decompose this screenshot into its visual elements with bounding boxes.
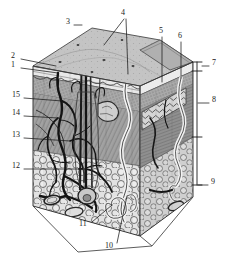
label-7: 7 xyxy=(212,59,216,67)
skin-block-illustration xyxy=(0,0,228,270)
label-14: 14 xyxy=(12,109,20,117)
label-6: 6 xyxy=(178,32,182,40)
label-15: 15 xyxy=(12,91,20,99)
skin-cross-section-figure: 1 2 3 4 5 6 7 8 9 10 11 12 13 14 15 xyxy=(0,0,228,270)
label-4: 4 xyxy=(121,9,125,17)
label-13: 13 xyxy=(12,131,20,139)
label-8: 8 xyxy=(212,96,216,104)
label-5: 5 xyxy=(159,27,163,35)
block-right-face xyxy=(140,62,193,236)
label-2: 2 xyxy=(11,52,15,60)
label-9: 9 xyxy=(211,178,215,186)
label-10: 10 xyxy=(105,242,113,250)
label-3: 3 xyxy=(66,18,70,26)
label-11: 11 xyxy=(79,220,87,228)
label-12: 12 xyxy=(12,162,20,170)
label-1: 1 xyxy=(11,61,15,69)
